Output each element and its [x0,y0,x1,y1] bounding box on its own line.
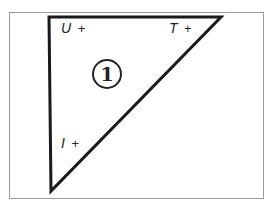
triangle-shape [0,0,275,205]
label-u: U+ [61,20,86,36]
label-i-sign: + [71,136,79,151]
label-t-sign: + [184,21,192,36]
label-t-letter: T [169,20,178,36]
region-number-badge: 1 [92,59,122,89]
label-u-sign: + [78,21,86,36]
label-t: T+ [169,20,192,36]
label-i: I+ [61,135,79,151]
label-u-letter: U [61,20,72,36]
label-i-letter: I [61,135,65,151]
